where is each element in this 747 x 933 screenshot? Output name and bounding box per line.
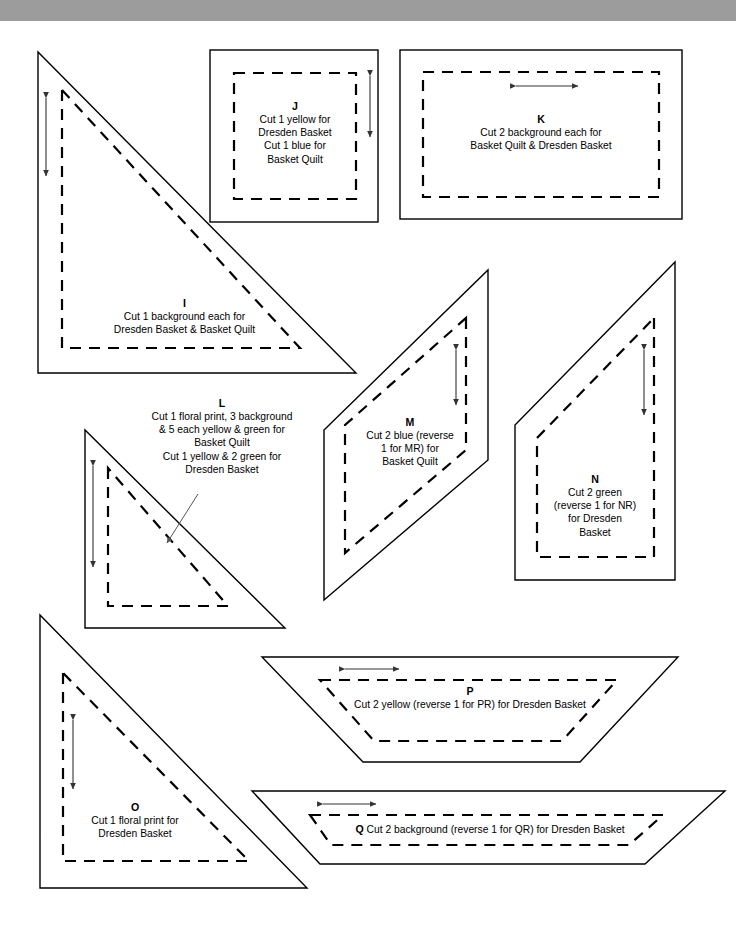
piece-L-leader-line (167, 494, 198, 543)
piece-Q-label: Q Cut 2 background (reverse 1 for QR) fo… (330, 822, 650, 836)
piece-M-label: M Cut 2 blue (reverse 1 for MR) for Bask… (346, 415, 474, 469)
piece-J-label: J Cut 1 yellow for Dresden Basket Cut 1 … (234, 99, 356, 166)
piece-L-label: L Cut 1 floral print, 3 background & 5 e… (122, 396, 322, 476)
piece-P-label: P Cut 2 yellow (reverse 1 for PR) for Dr… (330, 684, 610, 711)
piece-O-outline (40, 615, 307, 888)
piece-L-seamline (108, 468, 228, 606)
piece-K-label: K Cut 2 background each for Basket Quilt… (423, 112, 659, 152)
piece-O-shape (40, 615, 307, 888)
piece-N-label: N Cut 2 green (reverse 1 for NR) for Dre… (530, 472, 660, 539)
pattern-sheet: I Cut 1 background each for Dresden Bask… (0, 0, 747, 933)
piece-I-label: I Cut 1 background each for Dresden Bask… (37, 296, 332, 336)
piece-O-label: O Cut 1 floral print for Dresden Basket (55, 800, 215, 840)
